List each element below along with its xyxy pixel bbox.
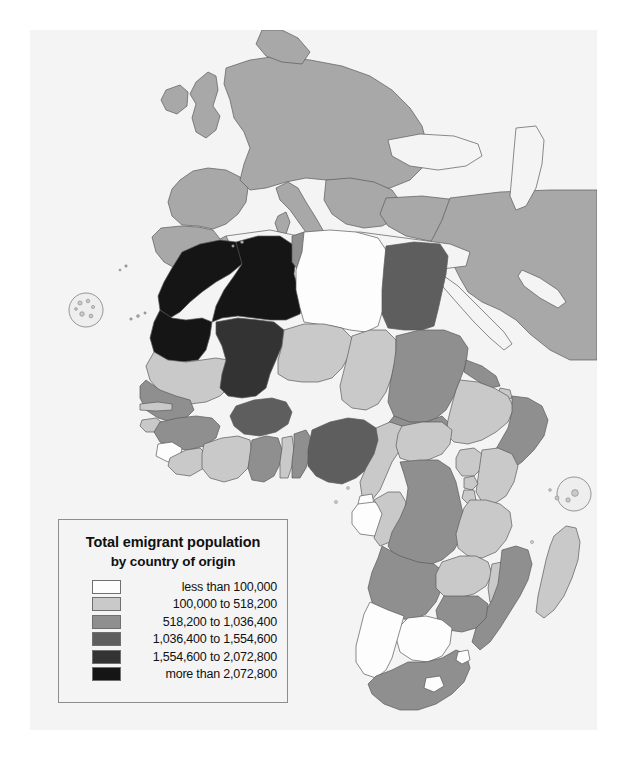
legend-row: 1,036,400 to 1,554,600 (59, 631, 277, 649)
legend-title: Total emigrant population by country of … (59, 520, 287, 571)
country-uganda (456, 448, 482, 476)
legend-row: more than 2,072,800 (59, 666, 277, 684)
legend-label: 518,200 to 1,036,400 (121, 615, 277, 629)
legend-swatch (92, 667, 121, 681)
map-page: Total emigrant population by country of … (0, 0, 629, 767)
cape-verde-inset (69, 293, 103, 327)
legend-row: less than 100,000 (59, 578, 277, 596)
legend-entries: less than 100,000 100,000 to 518,200 518… (59, 578, 287, 683)
legend-swatch (92, 580, 121, 594)
legend-label: more than 2,072,800 (121, 667, 277, 681)
island-bioko (347, 487, 350, 490)
legend-row: 1,554,600 to 2,072,800 (59, 648, 277, 666)
legend-swatch (92, 650, 121, 664)
map-legend: Total emigrant population by country of … (58, 519, 288, 703)
legend-title-line1: Total emigrant population (67, 533, 279, 552)
legend-label: 1,554,600 to 2,072,800 (121, 650, 277, 664)
legend-row: 100,000 to 518,200 (59, 596, 277, 614)
legend-label: less than 100,000 (121, 580, 277, 594)
legend-swatch (92, 615, 121, 629)
island-sao-tome (334, 500, 337, 503)
legend-title-line2: by country of origin (67, 552, 279, 571)
legend-swatch (92, 632, 121, 646)
island-comoros (530, 540, 533, 543)
country-gambia (140, 402, 172, 411)
legend-label: 100,000 to 518,200 (121, 597, 277, 611)
legend-row: 518,200 to 1,036,400 (59, 613, 277, 631)
country-libya (296, 230, 386, 332)
island-seychelles (549, 489, 552, 492)
legend-label: 1,036,400 to 1,554,600 (121, 632, 277, 646)
choropleth-map-figure: Total emigrant population by country of … (30, 30, 597, 730)
legend-swatch (92, 597, 121, 611)
